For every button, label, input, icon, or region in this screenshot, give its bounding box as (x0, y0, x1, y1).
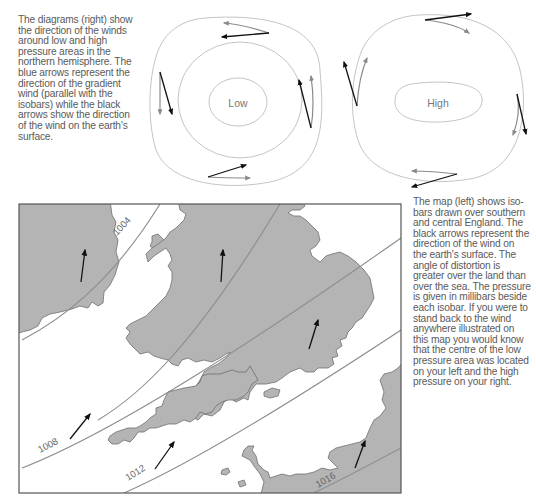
caption-line: the earth's surface. The (413, 250, 536, 261)
caption-line: pressure on your right. (413, 377, 536, 388)
caption-line: pressure area was located (413, 356, 536, 367)
map-caption: The map (left) shows iso- bars drawn ove… (413, 197, 536, 388)
caption-line: each isobar. If you were to (413, 303, 536, 314)
caption-line: The map (left) shows iso- (413, 197, 536, 208)
